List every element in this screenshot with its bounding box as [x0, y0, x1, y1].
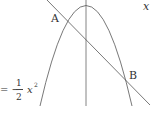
equation-variable: x — [27, 85, 33, 95]
fraction-numerator: 1 — [16, 78, 22, 88]
fraction-bar — [16, 89, 23, 90]
x-axis-label: x — [143, 1, 149, 12]
point-a-label: A — [51, 13, 59, 24]
graph-canvas — [0, 0, 154, 122]
equation-exponent: 2 — [34, 82, 38, 88]
point-b-label: B — [129, 70, 137, 81]
fraction-denominator: 2 — [16, 92, 22, 102]
secant-line — [47, 0, 150, 105]
